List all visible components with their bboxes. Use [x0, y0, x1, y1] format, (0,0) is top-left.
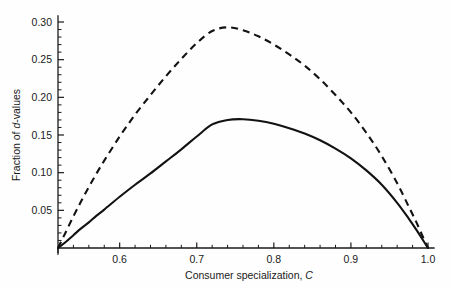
x-tick-label: 0.7: [189, 253, 204, 265]
x-tick-label: 0.6: [112, 253, 127, 265]
x-axis-minor-ticks: [58, 245, 413, 253]
y-axis-tick-labels: 0.050.100.150.200.250.30: [32, 16, 53, 216]
series-solid-curve: [58, 119, 428, 248]
x-axis-tick-labels: 0.60.70.80.91.0: [112, 253, 435, 265]
x-tick-label: 0.8: [267, 253, 282, 265]
x-tick-label: 1.0: [421, 253, 436, 265]
y-tick-label: 0.25: [32, 53, 53, 65]
series-dashed-curve: [58, 27, 428, 248]
line-chart-svg: 0.050.100.150.200.250.30 0.60.70.80.91.0…: [0, 0, 450, 288]
y-tick-label: 0.05: [32, 204, 53, 216]
y-tick-label: 0.20: [32, 91, 53, 103]
x-axis-title: Consumer specialization, C: [185, 269, 313, 281]
chart-figure: 0.050.100.150.200.250.30 0.60.70.80.91.0…: [0, 0, 450, 288]
y-tick-label: 0.10: [32, 166, 53, 178]
y-axis-major-ticks: [58, 22, 64, 210]
y-tick-label: 0.30: [32, 16, 53, 28]
y-tick-label: 0.15: [32, 129, 53, 141]
x-tick-label: 0.9: [344, 253, 359, 265]
y-axis-title: Fraction of d-values: [10, 89, 22, 181]
